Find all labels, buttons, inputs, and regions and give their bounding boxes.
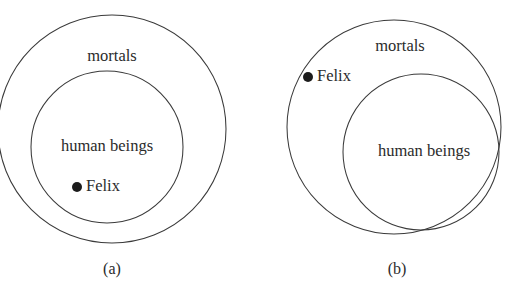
inner-set-label-b: human beings — [378, 141, 470, 160]
panel-caption-a: (a) — [103, 260, 121, 278]
felix-point-marker-b — [303, 72, 313, 82]
diagram-panel-a: mortals human beings Felix (a) — [0, 0, 258, 291]
panel-a-canvas: mortals human beings Felix (a) — [0, 0, 258, 291]
felix-point-label-a: Felix — [86, 176, 121, 195]
felix-point-marker-a — [72, 182, 82, 192]
outer-set-label-a: mortals — [87, 46, 137, 65]
diagram-panel-b: mortals human beings Felix (b) — [257, 0, 515, 291]
panel-caption-b: (b) — [388, 260, 407, 278]
outer-set-label-b: mortals — [375, 36, 425, 55]
felix-point-label-b: Felix — [317, 66, 352, 85]
inner-set-label-a: human beings — [61, 136, 153, 155]
figure-root: mortals human beings Felix (a) mortals h… — [0, 0, 515, 291]
panel-b-canvas: mortals human beings Felix (b) — [257, 0, 515, 291]
